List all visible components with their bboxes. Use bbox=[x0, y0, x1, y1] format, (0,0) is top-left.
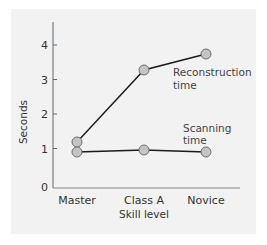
y-axis-title: Seconds bbox=[17, 100, 29, 144]
y-tick-label: 2 bbox=[41, 108, 48, 121]
annotation-reconstruction: Reconstruction bbox=[173, 66, 252, 78]
y-tick-label: 0 bbox=[41, 181, 48, 194]
series-scanning-time bbox=[72, 145, 211, 157]
y-ticks: 4 3 2 1 0 bbox=[41, 39, 57, 194]
annotation-scanning: time bbox=[183, 134, 207, 146]
y-tick-label: 3 bbox=[41, 74, 48, 87]
x-tick-label: Master bbox=[58, 194, 96, 207]
data-point bbox=[201, 147, 211, 157]
annotation-scanning: Scanning bbox=[183, 122, 231, 134]
data-point bbox=[201, 49, 211, 59]
x-axis-title: Skill level bbox=[119, 208, 169, 220]
x-tick-label: Novice bbox=[187, 194, 225, 207]
x-tick-label: Class A bbox=[124, 194, 164, 207]
data-point bbox=[139, 65, 149, 75]
data-point bbox=[139, 145, 149, 155]
data-point bbox=[72, 137, 82, 147]
y-tick-label: 4 bbox=[41, 39, 48, 52]
line-chart: 4 3 2 1 0 Seconds Master Class A Novice … bbox=[0, 0, 267, 245]
annotation-reconstruction: time bbox=[173, 79, 197, 91]
data-point bbox=[72, 147, 82, 157]
y-tick-label: 1 bbox=[41, 143, 48, 156]
